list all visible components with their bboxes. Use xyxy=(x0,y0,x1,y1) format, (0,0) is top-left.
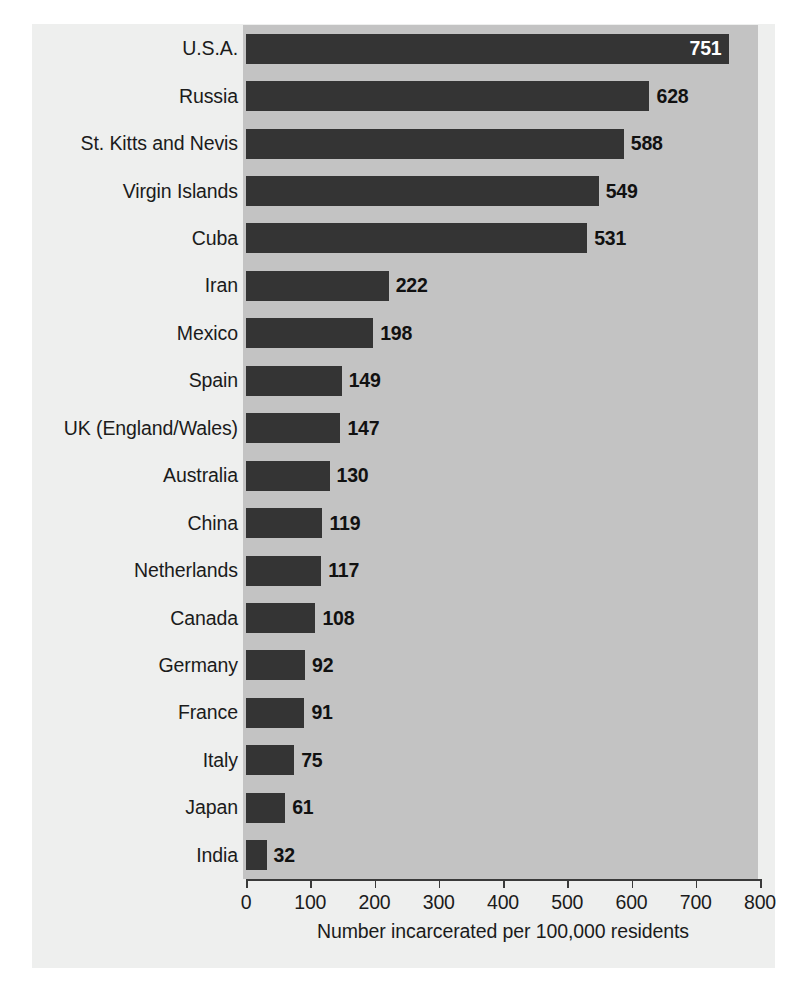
category-label: Germany xyxy=(32,654,238,677)
bar-container: 130 xyxy=(246,452,368,499)
bar-container: 92 xyxy=(246,642,333,689)
bar[interactable] xyxy=(246,318,373,348)
bar-value-label: 75 xyxy=(301,749,322,772)
bar-row: Australia130 xyxy=(32,452,775,499)
category-label: Mexico xyxy=(32,322,238,345)
bar-row: Italy75 xyxy=(32,737,775,784)
bar-value-label: 117 xyxy=(328,559,359,582)
bar[interactable] xyxy=(246,508,322,538)
bar-row: India32 xyxy=(32,832,775,879)
bar[interactable] xyxy=(246,81,649,111)
bar-row: Virgin Islands549 xyxy=(32,167,775,214)
category-label: Japan xyxy=(32,796,238,819)
category-label: Russia xyxy=(32,85,238,108)
figure-panel: U.S.A.751Russia628St. Kitts and Nevis588… xyxy=(32,24,775,968)
bar[interactable] xyxy=(246,271,389,301)
x-axis-tick-label: 0 xyxy=(241,891,252,914)
bar-row: Spain149 xyxy=(32,357,775,404)
bar[interactable] xyxy=(246,603,315,633)
bar-value-label: 119 xyxy=(329,512,360,535)
bar-container: 61 xyxy=(246,784,313,831)
bar[interactable] xyxy=(246,223,587,253)
category-label: China xyxy=(32,512,238,535)
bar[interactable] xyxy=(246,461,330,491)
category-label: Virgin Islands xyxy=(32,180,238,203)
bar[interactable] xyxy=(246,698,304,728)
bar-rows: U.S.A.751Russia628St. Kitts and Nevis588… xyxy=(32,25,775,879)
x-axis-tick-mark xyxy=(503,879,505,888)
bar-row: Germany92 xyxy=(32,642,775,689)
bar-row: St. Kitts and Nevis588 xyxy=(32,120,775,167)
bar-row: Iran222 xyxy=(32,262,775,309)
category-label: India xyxy=(32,844,238,867)
bar-value-label: 628 xyxy=(656,85,688,108)
category-label: Australia xyxy=(32,464,238,487)
bar-container: 108 xyxy=(246,594,354,641)
bar-container: 91 xyxy=(246,689,333,736)
x-axis-tick-label: 600 xyxy=(616,891,648,914)
x-axis-tick-mark xyxy=(696,879,698,888)
category-label: Italy xyxy=(32,749,238,772)
bar-value-label: 91 xyxy=(311,701,332,724)
bar-container: 628 xyxy=(246,72,688,119)
bar[interactable] xyxy=(246,745,294,775)
category-label: France xyxy=(32,701,238,724)
bar-container: 119 xyxy=(246,499,360,546)
bar-row: Japan61 xyxy=(32,784,775,831)
bar-row: Cuba531 xyxy=(32,215,775,262)
bar-row: Canada108 xyxy=(32,594,775,641)
x-axis: 0100200300400500600700800 Number incarce… xyxy=(32,879,775,968)
x-axis-tick-label: 300 xyxy=(423,891,455,914)
category-label: U.S.A. xyxy=(32,37,238,60)
category-label: Cuba xyxy=(32,227,238,250)
bar-row: UK (England/Wales)147 xyxy=(32,405,775,452)
bar-row: France91 xyxy=(32,689,775,736)
x-axis-tick-label: 100 xyxy=(294,891,326,914)
bar[interactable] xyxy=(246,793,285,823)
x-axis-tick-label: 700 xyxy=(680,891,712,914)
bar-row: Russia628 xyxy=(32,72,775,119)
bar-value-label: 751 xyxy=(690,37,722,60)
bar-value-label: 198 xyxy=(380,322,412,345)
bar-value-label: 61 xyxy=(292,796,313,819)
bar[interactable] xyxy=(246,176,599,206)
x-axis-tick-mark xyxy=(439,879,441,888)
bar-value-label: 130 xyxy=(337,464,369,487)
bar-row: U.S.A.751 xyxy=(32,25,775,72)
bar-container: 588 xyxy=(246,120,663,167)
bar[interactable] xyxy=(246,556,321,586)
bar[interactable] xyxy=(246,650,305,680)
bar[interactable]: 751 xyxy=(246,34,729,64)
bar-container: 149 xyxy=(246,357,381,404)
x-axis-tick-label: 400 xyxy=(487,891,519,914)
bar[interactable] xyxy=(246,413,340,443)
bar-container: 549 xyxy=(246,167,638,214)
bar-container: 75 xyxy=(246,737,322,784)
x-axis-tick-label: 500 xyxy=(551,891,583,914)
bar-container: 222 xyxy=(246,262,428,309)
x-axis-tick-mark xyxy=(567,879,569,888)
bar-value-label: 149 xyxy=(349,369,381,392)
bar-chart: U.S.A.751Russia628St. Kitts and Nevis588… xyxy=(32,24,775,968)
bar-value-label: 531 xyxy=(594,227,626,250)
bar-container: 751 xyxy=(246,25,729,72)
bar[interactable] xyxy=(246,840,267,870)
x-axis-tick-label: 800 xyxy=(744,891,776,914)
category-label: Netherlands xyxy=(32,559,238,582)
bar-container: 198 xyxy=(246,310,412,357)
category-label: UK (England/Wales) xyxy=(32,417,238,440)
bar-row: Mexico198 xyxy=(32,310,775,357)
x-axis-tick-mark xyxy=(760,879,762,888)
x-axis-tick-mark xyxy=(375,879,377,888)
bar-value-label: 108 xyxy=(322,607,354,630)
bar-container: 117 xyxy=(246,547,359,594)
bar-value-label: 92 xyxy=(312,654,333,677)
bar-row: China119 xyxy=(32,499,775,546)
bar[interactable] xyxy=(246,366,342,396)
bar[interactable] xyxy=(246,129,624,159)
category-label: St. Kitts and Nevis xyxy=(32,132,238,155)
x-axis-tick-mark xyxy=(310,879,312,888)
category-label: Canada xyxy=(32,607,238,630)
bar-value-label: 32 xyxy=(274,844,295,867)
category-label: Spain xyxy=(32,369,238,392)
